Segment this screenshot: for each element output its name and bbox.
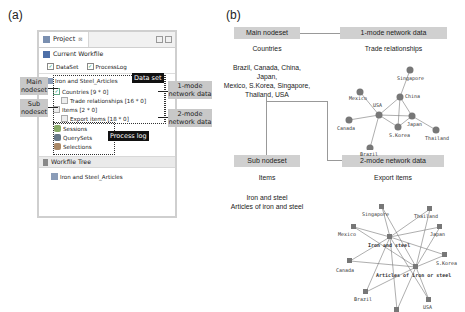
workfile-tree-item-label: Iron and Steel_Articles — [60, 174, 123, 180]
trade-node-label: Mexico — [349, 95, 367, 101]
callout-line: 1-mode — [168, 82, 212, 90]
trade-node-label: Thailand — [425, 135, 449, 141]
items-list: Iron and steel Articles of iron and stee… — [222, 193, 312, 211]
project-icon — [43, 36, 50, 43]
export-node-label: Articles of iron or steel — [376, 272, 451, 278]
countries-list: Brazil, Canada, China, Japan, Mexico, S.… — [222, 63, 312, 99]
arrow — [158, 91, 168, 92]
current-workfile-header: Current Workfile — [39, 48, 175, 60]
tab-close-icon[interactable]: ⊠ — [78, 32, 82, 47]
data-set-label: Data set — [132, 73, 164, 83]
dataset-checkbox[interactable]: ✓ — [47, 63, 54, 70]
export-node-label: Singapore — [362, 211, 389, 218]
workfile-tree-label: Workfile Tree — [51, 156, 91, 168]
trade-node-label: USA — [373, 102, 382, 108]
workfile-icon — [43, 51, 50, 58]
one-mode-callout: 1-mode network data — [168, 81, 212, 99]
panel-a-label: (a) — [8, 8, 23, 22]
maximize-icon[interactable] — [165, 36, 172, 43]
export-title: Export items — [342, 173, 444, 182]
connector — [327, 160, 342, 161]
two-mode-box: 2-mode network data — [342, 155, 444, 167]
dataset-checkbox-label: DataSet — [56, 64, 79, 70]
tab-project[interactable]: Project ⊠ — [39, 32, 89, 47]
dataset-icon — [51, 173, 58, 180]
sub-nodeset-box: Sub nodeset — [234, 155, 300, 167]
export-network-graph: Singapore Thailand Mexico Japan Iron and… — [330, 185, 465, 312]
callout-line: nodeset — [20, 86, 48, 94]
workfile-tree-header: Workfile Tree — [39, 156, 175, 168]
trade-node-label: Japan — [407, 121, 422, 128]
connector — [266, 95, 267, 155]
countries-title: Countries — [234, 44, 300, 53]
export-node-label: Japan — [430, 231, 445, 238]
tab-bar: Project ⊠ — [39, 32, 175, 48]
tab-project-label: Project — [53, 32, 75, 47]
callout-line: 2-mode — [168, 110, 212, 118]
minimize-icon[interactable] — [156, 36, 163, 43]
items-line: Iron and steel — [222, 193, 312, 202]
processlog-checkbox[interactable]: ✓ — [87, 63, 94, 70]
current-workfile-label: Current Workfile — [53, 48, 103, 60]
export-node-label: S.Korea — [436, 260, 457, 266]
trade-node-label: Canada — [337, 125, 355, 131]
processlog-checkbox-label: ProcessLog — [96, 64, 127, 70]
process-log-outline — [53, 122, 115, 155]
items-line: Articles of iron and steel — [222, 202, 312, 211]
export-node-label: Canada — [336, 267, 354, 273]
callout-line: Sub — [20, 100, 48, 108]
two-mode-callout: 2-mode network data — [168, 109, 212, 127]
countries-line: Thailand, USA — [222, 90, 312, 99]
connector — [266, 101, 328, 102]
workfile-tree-item[interactable]: Iron and Steel_Articles — [51, 173, 123, 180]
callout-line: nodeset — [20, 108, 48, 116]
export-node-label: Thailand — [414, 213, 438, 219]
callout-line: network data — [168, 118, 212, 126]
main-nodeset-callout: Main nodeset — [20, 77, 48, 95]
panel-b-label: (b) — [226, 8, 241, 22]
process-log-label: Process log — [108, 131, 149, 141]
arrow — [48, 107, 58, 108]
callout-line: Main — [20, 78, 48, 86]
dotted-connector — [164, 75, 165, 122]
trade-network-graph: Singapore Mexico China USA Canada Japan … — [335, 50, 465, 150]
export-node-label: Iron and steel — [368, 242, 410, 248]
main-nodeset-box: Main nodeset — [234, 27, 300, 39]
dataset-checkbox-row[interactable]: ✓ DataSet ✓ ProcessLog — [47, 63, 127, 70]
connector — [327, 101, 328, 161]
trade-node-label: China — [405, 93, 420, 99]
export-node-label: USA — [423, 304, 432, 310]
trade-node-label: Singapore — [397, 75, 424, 82]
items-title: Items — [234, 173, 300, 182]
export-node-label: Mexico — [338, 231, 356, 237]
countries-line: Brazil, Canada, China, Japan, — [222, 63, 312, 81]
one-mode-box: 1-mode network data — [340, 27, 447, 39]
export-node-label: Brazil — [354, 296, 372, 302]
tree-icon — [43, 159, 48, 166]
trade-node-label: S.Korea — [389, 132, 410, 138]
callout-line: network data — [168, 90, 212, 98]
arrow — [48, 88, 58, 89]
trade-node-label: Brazil — [360, 151, 378, 157]
countries-line: Mexico, S.Korea, Singapore, — [222, 81, 312, 90]
arrow — [158, 117, 168, 118]
connector — [300, 33, 340, 34]
sub-nodeset-callout: Sub nodeset — [20, 99, 48, 117]
